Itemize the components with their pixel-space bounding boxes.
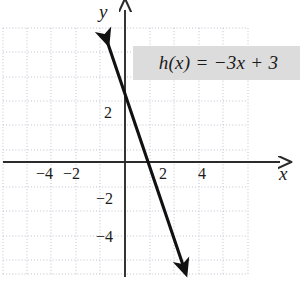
coordinate-plane	[0, 0, 300, 282]
x-tick-label-neg4: −4	[36, 165, 53, 183]
x-tick-label-2: 2	[159, 165, 167, 183]
equation-label-box: h(x) = −3x + 3	[133, 46, 300, 80]
x-tick-label-neg2: −2	[63, 165, 80, 183]
y-tick-label-neg4: −4	[96, 228, 113, 246]
y-tick-label-2: 2	[104, 104, 112, 122]
y-axis-label: y	[99, 1, 107, 23]
graph-figure: h(x) = −3x + 3 y x −4 −2 2 4 2 −2 −4	[0, 0, 300, 282]
x-axis-label: x	[279, 163, 287, 185]
equation-label-text: h(x) = −3x + 3	[159, 52, 279, 74]
y-tick-label-neg2: −2	[96, 190, 113, 208]
x-tick-label-4: 4	[198, 165, 206, 183]
